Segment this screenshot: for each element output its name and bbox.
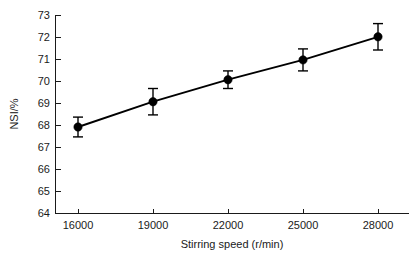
x-tick-label: 22000: [213, 219, 244, 231]
data-point: [149, 98, 157, 106]
data-point: [224, 76, 232, 84]
line-chart-plot: 73 72 71 70 69 68 67 66 65 64 16000 1900…: [0, 0, 420, 258]
x-tick-label: 16000: [63, 219, 94, 231]
y-tick-label: 68: [38, 119, 50, 131]
x-tick-label: 25000: [288, 219, 319, 231]
y-tick-label: 70: [38, 75, 50, 87]
y-tick-label: 69: [38, 97, 50, 109]
x-axis-title: Stirring speed (r/min): [181, 238, 284, 250]
y-tick-label: 66: [38, 163, 50, 175]
y-tick-label: 72: [38, 31, 50, 43]
y-tick-label: 65: [38, 185, 50, 197]
y-tick-label: 67: [38, 141, 50, 153]
y-axis-title: NSI/%: [8, 98, 20, 129]
data-point: [299, 56, 307, 64]
y-tick-label: 64: [38, 207, 50, 219]
data-point: [374, 33, 382, 41]
y-tick-label: 71: [38, 53, 50, 65]
x-tick-label: 19000: [138, 219, 169, 231]
y-tick-label: 73: [38, 9, 50, 21]
data-point: [74, 123, 82, 131]
x-tick-label: 28000: [363, 219, 394, 231]
chart-container: 73 72 71 70 69 68 67 66 65 64 16000 1900…: [0, 0, 420, 258]
